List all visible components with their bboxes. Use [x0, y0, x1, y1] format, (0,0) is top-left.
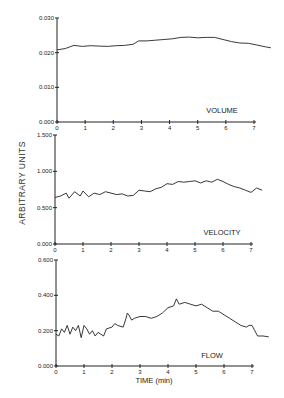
y-tick-label: 1.000 — [37, 168, 53, 174]
y-tick-label: 0.030 — [39, 15, 55, 21]
volume-panel: 0.0000.0100.0200.03001234567VOLUME — [39, 15, 271, 131]
x-tick-label: 7 — [249, 247, 253, 253]
y-tick-label: 0.000 — [37, 241, 53, 247]
panel-label: VOLUME — [206, 106, 238, 115]
x-tick-label: 3 — [137, 247, 141, 253]
x-tick-label: 4 — [165, 247, 169, 253]
y-tick-label: 0.200 — [38, 328, 54, 334]
x-tick-label: 6 — [222, 369, 226, 375]
velocity-panel: 0.0000.5001.0001.50001234567VELOCITY — [37, 132, 262, 253]
x-tick-label: 3 — [140, 125, 144, 131]
x-tick-label: 4 — [166, 369, 170, 375]
flow-panel: 0.0000.2000.4000.60001234567FLOW — [38, 257, 269, 375]
y-tick-label: 1.500 — [37, 132, 53, 138]
x-tick-label: 2 — [110, 369, 114, 375]
x-tick-label: 1 — [83, 125, 87, 131]
x-tick-label: 5 — [196, 125, 200, 131]
x-tick-label: 0 — [53, 247, 57, 253]
x-tick-label: 4 — [168, 125, 172, 131]
x-tick-label: 0 — [55, 125, 59, 131]
y-axis-label: ARBITRARY UNITS — [17, 141, 27, 225]
y-tick-label: 0.000 — [39, 119, 55, 125]
x-tick-label: 5 — [193, 247, 197, 253]
x-tick-label: 1 — [82, 369, 86, 375]
y-tick-label: 0.020 — [39, 50, 55, 56]
x-tick-label: 2 — [112, 125, 116, 131]
x-tick-label: 1 — [81, 247, 85, 253]
y-tick-label: 0.600 — [38, 257, 54, 263]
x-tick-label: 0 — [54, 369, 58, 375]
data-series-line — [55, 179, 262, 198]
figure: 0.0000.0100.0200.03001234567VOLUME 0.000… — [0, 0, 284, 398]
x-tick-label: 3 — [138, 369, 142, 375]
x-tick-label: 6 — [224, 125, 228, 131]
y-tick-label: 0.400 — [38, 292, 54, 298]
y-tick-label: 0.010 — [39, 84, 55, 90]
panel-label: VELOCITY — [203, 228, 240, 237]
panel-label: FLOW — [201, 351, 224, 360]
x-tick-label: 2 — [109, 247, 113, 253]
data-series-line — [56, 299, 269, 338]
x-axis-label: TIME (min) — [135, 376, 173, 385]
y-tick-label: 0.000 — [38, 363, 54, 369]
data-series-line — [57, 37, 271, 50]
x-tick-label: 7 — [252, 125, 256, 131]
x-tick-label: 5 — [194, 369, 198, 375]
x-tick-label: 7 — [250, 369, 254, 375]
y-tick-label: 0.500 — [37, 205, 53, 211]
x-tick-label: 6 — [221, 247, 225, 253]
